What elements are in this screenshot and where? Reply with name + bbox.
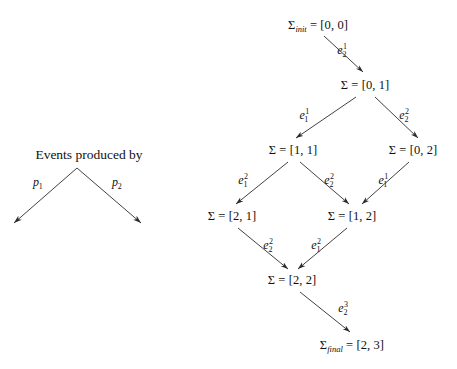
edge-label-s11-to-s21: e21 (238, 174, 251, 186)
diagram-canvas: Σinit = [0, 0]Σ = [0, 1]Σ = [1, 1]Σ = [0… (0, 0, 457, 369)
state-node-s01: Σ = [0, 1] (341, 79, 390, 92)
legend-title: Events produced by (35, 148, 142, 162)
edge-label-s11-to-s12: e22 (324, 174, 337, 186)
legend-label-p1: p1 (33, 176, 43, 188)
state-node-s02: Σ = [0, 2] (389, 144, 438, 157)
edge-label-s01-to-s02: e22 (399, 109, 412, 121)
state-node-s21: Σ = [2, 1] (208, 210, 257, 223)
state-node-s11: Σ = [1, 1] (269, 144, 318, 157)
edge-label-init-to-s01: e12 (337, 44, 350, 56)
edge-label-s12-to-s22: e21 (311, 239, 324, 251)
state-node-s12: Σ = [1, 2] (328, 210, 377, 223)
edge-label-s21-to-s22: e22 (263, 239, 276, 251)
state-node-init: Σinit = [0, 0] (288, 19, 348, 32)
edge-label-s22-to-final: e32 (338, 302, 351, 314)
edge-label-s01-to-s11: e11 (299, 109, 312, 121)
legend-label-p2: p2 (112, 176, 122, 188)
labels-layer: Σinit = [0, 0]Σ = [0, 1]Σ = [1, 1]Σ = [0… (0, 0, 457, 369)
edge-label-s02-to-s12: e11 (378, 174, 391, 186)
state-node-final: Σfinal = [2, 3] (320, 339, 384, 352)
state-node-s22: Σ = [2, 2] (268, 274, 317, 287)
